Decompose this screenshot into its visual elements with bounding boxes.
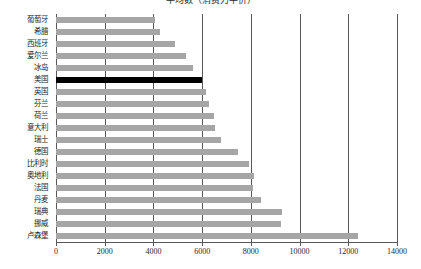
bar: [56, 125, 215, 131]
category-label: 挪威: [34, 220, 48, 228]
category-label: 葡萄牙: [27, 16, 48, 24]
x-tick-12000: [348, 242, 349, 246]
bar: [56, 173, 254, 179]
x-tick-14000: [397, 242, 398, 246]
x-tick-0: [56, 242, 57, 246]
category-label: 荷兰: [34, 112, 48, 120]
bar: [56, 197, 261, 203]
category-label: 瑞典: [34, 208, 48, 216]
bar: [56, 65, 193, 71]
x-tick-2000: [105, 242, 106, 246]
category-label: 比利时: [27, 160, 48, 168]
gridline-14000: [397, 14, 398, 242]
bar: [56, 77, 202, 83]
category-label: 西班牙: [27, 40, 48, 48]
category-label: 爱尔兰: [27, 52, 48, 60]
category-label: 丹麦: [34, 196, 48, 204]
bar: [56, 137, 221, 143]
x-tick-label: 0: [54, 247, 58, 257]
category-label: 法国: [34, 184, 48, 192]
x-tick-label: 14000: [387, 247, 407, 257]
x-tick-label: 4000: [145, 247, 161, 257]
bar: [56, 221, 281, 227]
x-tick-label: 6000: [194, 247, 210, 257]
bar: [56, 41, 175, 47]
x-tick-4000: [153, 242, 154, 246]
category-label: 德国: [34, 148, 48, 156]
x-tick-label: 12000: [338, 247, 358, 257]
bar: [56, 161, 249, 167]
x-tick-label: 10000: [290, 247, 310, 257]
x-tick-6000: [202, 242, 203, 246]
bar: [56, 17, 155, 23]
category-axis-labels: 葡萄牙希腊西班牙爱尔兰冰岛美国英国芬兰荷兰意大利瑞士德国比利时奥地利法国丹麦瑞典…: [0, 14, 52, 242]
category-label: 意大利: [27, 124, 48, 132]
bar-series: [56, 14, 397, 242]
category-label: 芬兰: [34, 100, 48, 108]
bar: [56, 101, 209, 107]
bar-chart: 平均数（消费力平价） 葡萄牙希腊西班牙爱尔兰冰岛美国英国芬兰荷兰意大利瑞士德国比…: [0, 0, 421, 269]
bar: [56, 185, 253, 191]
plot-area: [56, 14, 397, 242]
bar: [56, 53, 186, 59]
x-tick-label: 2000: [97, 247, 113, 257]
x-axis-line: [56, 242, 398, 243]
bar: [56, 113, 214, 119]
x-tick-label: 8000: [243, 247, 259, 257]
category-label: 瑞士: [34, 136, 48, 144]
bar: [56, 233, 358, 239]
category-label: 冰岛: [34, 64, 48, 72]
x-tick-10000: [300, 242, 301, 246]
category-label: 希腊: [34, 28, 48, 36]
category-label: 英国: [34, 88, 48, 96]
category-label: 卢森堡: [27, 232, 48, 240]
category-label: 奥地利: [27, 172, 48, 180]
bar: [56, 29, 160, 35]
x-tick-8000: [251, 242, 252, 246]
chart-title: 平均数（消费力平价）: [0, 0, 421, 5]
category-label: 美国: [34, 76, 48, 84]
bar: [56, 89, 206, 95]
bar: [56, 209, 282, 215]
bar: [56, 149, 238, 155]
